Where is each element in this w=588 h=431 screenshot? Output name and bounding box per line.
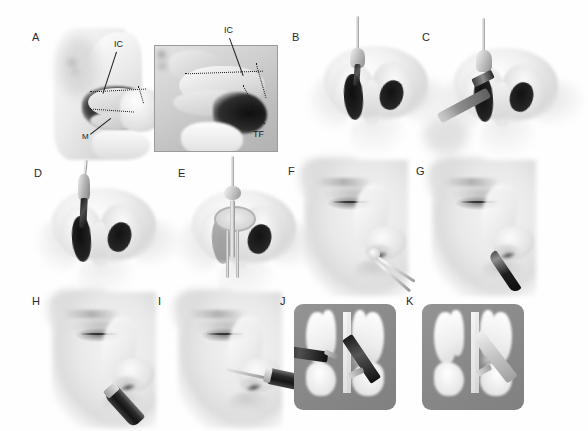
panel-i: I [144, 290, 294, 426]
speculum-blade-left-e [226, 230, 229, 278]
panel-a: A IC M [14, 22, 154, 154]
panel-g: G [410, 158, 570, 294]
panel-i-artwork [144, 290, 294, 426]
speculum-ring-e [214, 206, 256, 232]
panel-e-artwork [152, 164, 302, 292]
panel-k: K [400, 290, 560, 426]
scissors-tip-f [368, 248, 380, 260]
speculum-shaft-e [231, 156, 234, 188]
panel-b: B [288, 22, 438, 156]
speculum-blades-e [230, 200, 235, 258]
annotation-ic-inset: IC [224, 26, 233, 35]
panel-d: D [16, 164, 166, 292]
panel-b-artwork [288, 22, 438, 156]
panel-e: E [152, 164, 302, 292]
annotation-ic-a: IC [114, 40, 123, 49]
annotation-tf-inset: TF [253, 130, 264, 139]
panel-label-k: K [406, 296, 414, 307]
panel-c: C [420, 22, 576, 156]
speculum-hub-e [224, 186, 241, 200]
panel-d-artwork [16, 164, 166, 292]
endoscope-shaft-c [482, 18, 485, 54]
panel-a-artwork: IC M [14, 22, 154, 154]
endoscope-hub-c [476, 50, 492, 72]
panel-a-inset: IC TF [154, 20, 282, 156]
panel-label-j: J [280, 296, 286, 307]
annotation-m-a: M [82, 132, 89, 141]
figure-canvas: A IC M [0, 0, 588, 431]
speculum-blade-right-e [236, 230, 239, 278]
panel-j-artwork [294, 304, 396, 410]
panel-c-artwork [420, 22, 576, 156]
instrument-shaft-b [356, 16, 359, 50]
scissors-hub-d [78, 174, 90, 200]
panel-k-artwork [422, 304, 524, 410]
panel-g-artwork [410, 158, 570, 294]
